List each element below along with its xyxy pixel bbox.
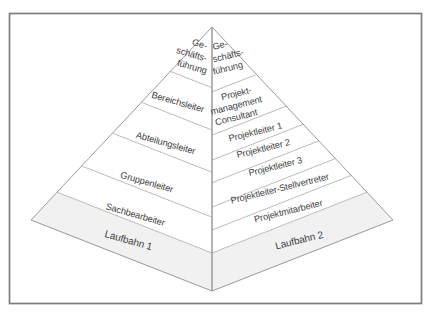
pyramid-diagram: Ge- schäfts- führung Bereichsleiter Abte…	[0, 0, 430, 317]
figure-canvas: Ge- schäfts- führung Bereichsleiter Abte…	[0, 0, 430, 317]
